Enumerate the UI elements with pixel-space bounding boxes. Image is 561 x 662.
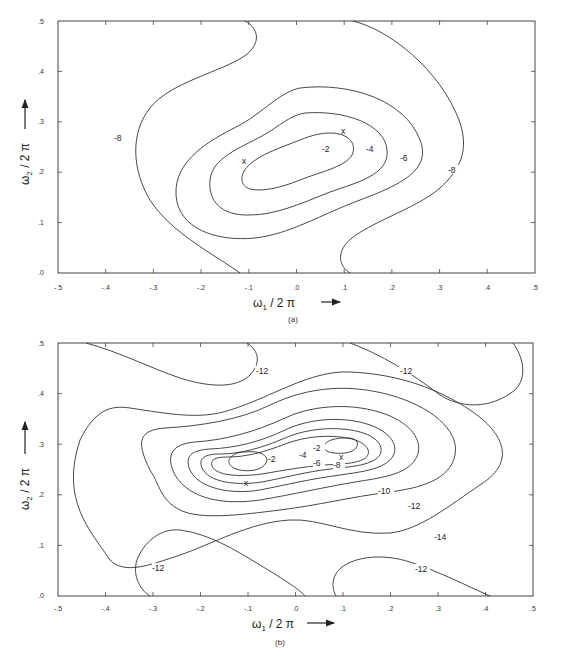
svg-text:.5: .5	[530, 605, 536, 612]
svg-text:.2: .2	[389, 284, 395, 291]
svg-text:-12: -12	[408, 501, 421, 511]
svg-text:.5: .5	[38, 18, 44, 25]
svg-text:.4: .4	[38, 390, 44, 397]
svg-text:.1: .1	[38, 219, 44, 226]
panel-tag-b: (b)	[275, 638, 285, 647]
svg-text:-12: -12	[415, 564, 428, 574]
svg-text:-2: -2	[313, 443, 321, 453]
x-tick-labels-b: -.5 -.4 -.3 -.2 -.1 .0 .1 .2 .3 .4 .5	[54, 605, 536, 612]
svg-text:-6: -6	[313, 458, 321, 468]
svg-text:-.4: -.4	[102, 284, 110, 291]
svg-text:-12: -12	[152, 563, 165, 573]
svg-text:-.3: -.3	[149, 605, 157, 612]
svg-text:-8: -8	[114, 133, 122, 143]
y-tick-labels-a: .0 .1 .2 .3 .4 .5	[38, 18, 44, 276]
marker-x-icon: x	[341, 126, 346, 136]
svg-text:.3: .3	[38, 441, 44, 448]
y-ticks-b	[58, 394, 533, 546]
y-tick-labels-b: .0 .1 .2 .3 .4 .5	[38, 340, 44, 599]
svg-text:.0: .0	[294, 284, 300, 291]
svg-text:-.1: -.1	[245, 284, 253, 291]
svg-text:-.5: -.5	[54, 284, 62, 291]
svg-text:-.5: -.5	[54, 605, 62, 612]
plot-frame-b	[58, 343, 533, 596]
svg-text:.5: .5	[38, 340, 44, 347]
svg-text:.1: .1	[38, 542, 44, 549]
svg-text:.4: .4	[484, 284, 490, 291]
svg-text:.1: .1	[340, 605, 346, 612]
svg-text:-.2: -.2	[196, 605, 204, 612]
svg-text:.4: .4	[38, 68, 44, 75]
panel-b: -.5 -.4 -.3 -.2 -.1 .0 .1 .2 .3 .4 .5 .0…	[18, 340, 536, 647]
panel-tag-a: (a)	[288, 315, 298, 324]
svg-text:.3: .3	[435, 605, 441, 612]
contours-a	[136, 21, 464, 273]
svg-text:.3: .3	[38, 118, 44, 125]
svg-text:ω2 / 2 π: ω2 / 2 π	[18, 143, 34, 185]
svg-text:-.2: -.2	[197, 284, 205, 291]
svg-text:.5: .5	[532, 284, 538, 291]
svg-text:-12: -12	[400, 366, 413, 376]
svg-text:ω1 / 2 π: ω1 / 2 π	[253, 296, 295, 312]
svg-text:.3: .3	[437, 284, 443, 291]
svg-text:ω2 / 2 π: ω2 / 2 π	[18, 468, 34, 510]
svg-text:-14: -14	[434, 532, 447, 542]
svg-text:.1: .1	[341, 284, 347, 291]
svg-text:.2: .2	[38, 168, 44, 175]
svg-text:-10: -10	[378, 486, 391, 496]
x-ticks-b	[106, 343, 486, 596]
x-ticks-a	[106, 21, 488, 273]
x-axis-title-a: ω1 / 2 π (a)	[253, 296, 340, 324]
svg-text:-.4: -.4	[101, 605, 109, 612]
contours-b	[73, 343, 522, 596]
svg-text:-.1: -.1	[244, 605, 252, 612]
svg-text:.0: .0	[38, 269, 44, 276]
panel-a: -.5 -.4 -.3 -.2 -.1 .0 .1 .2 .3 .4 .5 .0…	[18, 18, 538, 324]
svg-text:-4: -4	[366, 144, 374, 154]
svg-text:.0: .0	[38, 592, 44, 599]
y-axis-title-b: ω2 / 2 π	[18, 422, 34, 510]
svg-text:-2: -2	[268, 454, 276, 464]
svg-text:-6: -6	[400, 153, 408, 163]
contour-labels-a: -8 -2 -4 -6 -8	[114, 133, 460, 175]
svg-text:.2: .2	[38, 491, 44, 498]
svg-text:.4: .4	[483, 605, 489, 612]
x-axis-title-b: ω1 / 2 π (b)	[252, 617, 334, 647]
svg-text:ω1 / 2 π: ω1 / 2 π	[252, 617, 294, 633]
svg-text:-.3: -.3	[149, 284, 157, 291]
svg-text:-12: -12	[256, 366, 269, 376]
svg-text:-4: -4	[299, 450, 307, 460]
svg-text:.2: .2	[388, 605, 394, 612]
svg-text:-2: -2	[322, 144, 330, 154]
extrema-markers-a: x x	[242, 126, 346, 166]
contour-labels-b: -12 -12 -2 -2 -4 -6 -8 -10 -12 -14 -12 -…	[152, 366, 449, 574]
svg-text:.0: .0	[293, 605, 299, 612]
svg-text:-8: -8	[448, 165, 456, 175]
marker-x-icon: x	[242, 156, 247, 166]
y-axis-title-a: ω2 / 2 π	[18, 100, 34, 185]
figure: -.5 -.4 -.3 -.2 -.1 .0 .1 .2 .3 .4 .5 .0…	[0, 0, 561, 662]
x-tick-labels-a: -.5 -.4 -.3 -.2 -.1 .0 .1 .2 .3 .4 .5	[54, 284, 538, 291]
